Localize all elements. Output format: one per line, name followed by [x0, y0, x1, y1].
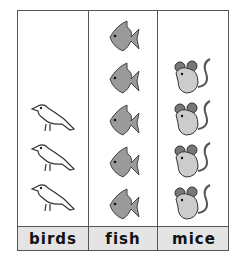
- fish-icon: [107, 57, 141, 97]
- bird-icon: [28, 99, 78, 139]
- mouse-icon: [170, 183, 216, 223]
- column-mice: [158, 11, 230, 227]
- fish-icon: [107, 141, 141, 181]
- label-mice: mice: [158, 227, 230, 250]
- mouse-icon: [170, 141, 216, 181]
- pictograph-table: birds fish mice: [17, 10, 229, 251]
- bird-icon: [28, 179, 78, 219]
- fish-icon: [107, 15, 141, 55]
- label-fish: fish: [89, 227, 158, 250]
- fish-icon: [107, 99, 141, 139]
- label-birds: birds: [18, 227, 89, 250]
- fish-icon: [107, 183, 141, 223]
- mouse-icon: [170, 99, 216, 139]
- category-label-row: birds fish mice: [18, 226, 228, 250]
- bird-icon: [28, 139, 78, 179]
- mouse-icon: [170, 57, 216, 97]
- column-birds: [18, 11, 89, 227]
- column-fish: [89, 11, 158, 227]
